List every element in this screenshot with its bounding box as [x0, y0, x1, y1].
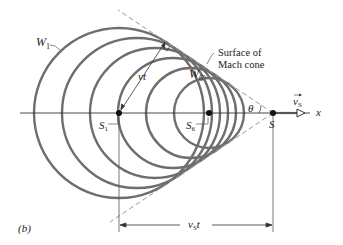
surface-leader: [207, 53, 214, 64]
svg-text:vS: vS: [293, 95, 302, 109]
label-w1: W1: [36, 35, 50, 51]
w1-leader: [50, 45, 60, 50]
label-theta: θ: [248, 102, 254, 114]
label-vst: vSt: [188, 218, 201, 232]
dim-arrow-right-icon: [266, 223, 272, 227]
source-s-dot: [270, 110, 276, 116]
dim-arrow-left-icon: [120, 223, 126, 227]
label-velocity: vS: [293, 94, 302, 110]
theta-arc: [259, 105, 261, 113]
mach-cone-diagram: W1 W6 vt S1 S6 S θ x vS vSt Surface of M…: [0, 0, 343, 245]
s6-leader: [196, 117, 208, 124]
label-vt: vt: [138, 70, 147, 82]
s1-leader: [108, 117, 118, 124]
mach-cone-lines: [110, 10, 273, 222]
label-s: S: [269, 118, 275, 130]
source-s6-dot: [206, 110, 212, 116]
vector-arrow-icon: [299, 94, 302, 97]
label-surface-mach-cone: Surface of Mach cone: [218, 47, 265, 70]
label-s1: S1: [99, 119, 109, 133]
label-x-axis: x: [315, 106, 321, 118]
panel-label: (b): [18, 222, 31, 235]
label-s6: S6: [186, 119, 196, 133]
velocity-arrowhead-icon: [297, 109, 305, 117]
source-s1-dot: [116, 110, 122, 116]
